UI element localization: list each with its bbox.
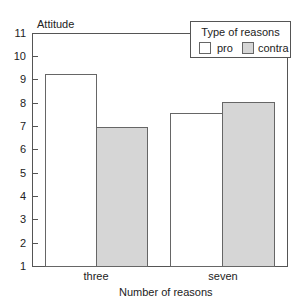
legend-label-pro: pro: [217, 42, 233, 54]
y-tick-label: 11: [6, 27, 26, 39]
y-tick: [32, 196, 38, 197]
y-tick-label: 2: [6, 237, 26, 249]
bar-three-contra: [96, 127, 148, 267]
bar-seven-contra: [222, 102, 275, 267]
y-tick: [32, 173, 38, 174]
bar-chart: Attitude 1 2 3 4 5 6 7 8 9 10 11 three s…: [0, 0, 306, 307]
y-tick: [32, 56, 38, 57]
y-tick-label: 6: [6, 143, 26, 155]
legend: Type of reasons pro contra: [190, 21, 291, 58]
y-tick: [32, 126, 38, 127]
y-tick-label: 8: [6, 97, 26, 109]
y-tick: [32, 219, 38, 220]
bar-three-pro: [45, 74, 97, 267]
y-tick-label: 1: [6, 260, 26, 272]
legend-label-contra: contra: [258, 42, 289, 54]
legend-swatch-pro: [199, 42, 211, 54]
y-tick: [32, 149, 38, 150]
legend-title: Type of reasons: [191, 26, 290, 38]
y-tick: [32, 79, 38, 80]
y-tick-label: 5: [6, 167, 26, 179]
bar-seven-pro: [170, 113, 223, 267]
x-category-three: three: [66, 270, 126, 282]
y-tick-label: 9: [6, 73, 26, 85]
y-tick: [32, 243, 38, 244]
y-tick: [32, 103, 38, 104]
x-category-seven: seven: [193, 270, 253, 282]
y-axis-title: Attitude: [37, 18, 74, 30]
y-tick-label: 10: [6, 50, 26, 62]
y-tick-label: 4: [6, 190, 26, 202]
y-tick-label: 3: [6, 213, 26, 225]
legend-swatch-contra: [242, 42, 254, 54]
y-tick-label: 7: [6, 120, 26, 132]
x-axis-title: Number of reasons: [119, 286, 213, 298]
